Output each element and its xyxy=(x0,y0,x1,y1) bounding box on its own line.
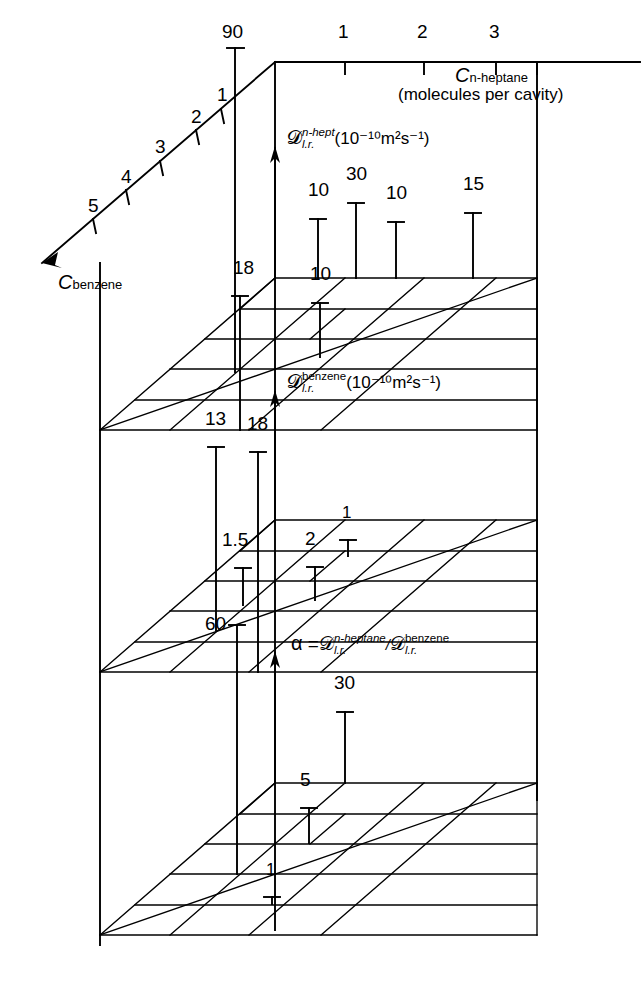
bar-label-10-b: 10 xyxy=(386,183,407,202)
x-axis-symbol: C xyxy=(455,64,469,86)
x-axis-title: Cn-heptane xyxy=(455,65,528,85)
depth-axis-title: Cbenzene xyxy=(58,272,122,292)
scale-label-90: 90 xyxy=(222,22,243,41)
x-axis-units: (molecules per cavity) xyxy=(398,86,563,103)
x-axis-subscript: n-heptane xyxy=(469,70,528,85)
diffusivity-indices-nhept: n-heptl.r. xyxy=(302,127,335,150)
diffusivity-units-benzene: (10⁻¹⁰m²s⁻¹) xyxy=(346,373,441,392)
diffusivity-indices-benzene: benzenel.r. xyxy=(302,371,346,394)
panel-n-heptane-label: 𝓓n-heptl.r.(10⁻¹⁰m²s⁻¹) xyxy=(287,128,430,151)
scale-bar-90 xyxy=(227,48,244,372)
bar-label-30-alpha: 30 xyxy=(334,673,355,692)
bar-label-2: 2 xyxy=(305,529,316,548)
alpha-numerator-symbol: 𝒟 xyxy=(319,632,334,654)
depth-axis-symbol: C xyxy=(58,271,72,293)
bar-label-1-alpha: 1 xyxy=(266,861,275,878)
depth-tick-label-1: 1 xyxy=(217,85,228,104)
bar-label-10-c: 10 xyxy=(310,264,331,283)
panel-alpha-bars xyxy=(229,625,353,904)
bar-label-60: 60 xyxy=(205,614,226,633)
bar-60 xyxy=(229,625,245,874)
bar-label-1p5: 1.5 xyxy=(222,530,248,549)
alpha-equals: = xyxy=(308,633,319,654)
diffusivity-symbol-nhept: 𝓓 xyxy=(287,126,302,148)
panel-alpha-base-plane xyxy=(100,783,537,935)
diffusivity-symbol-benzene: 𝓓 xyxy=(287,370,302,392)
panel-alpha-axis-arrow xyxy=(270,651,280,783)
panel-benzene-axis-arrow xyxy=(270,390,280,520)
bar-label-10-a: 10 xyxy=(308,180,329,199)
bar-5 xyxy=(301,808,317,843)
depth-axis-subscript: benzene xyxy=(72,277,122,292)
bar-label-15: 15 xyxy=(463,174,484,193)
bar-1-alpha xyxy=(264,897,280,904)
bar-label-18-top: 18 xyxy=(233,258,254,277)
bar-label-1-inner: 1 xyxy=(342,504,351,521)
bar-label-5: 5 xyxy=(300,770,311,789)
alpha-denominator-symbol: 𝒟 xyxy=(390,632,405,654)
bar-18-front xyxy=(250,452,266,672)
alpha-numerator-indices: n-heptanel.r. xyxy=(334,633,386,656)
depth-tick-label-3: 3 xyxy=(155,137,166,156)
depth-tick-label-5: 5 xyxy=(88,196,99,215)
bar-1p5 xyxy=(235,568,251,605)
panel-n-heptane-bars xyxy=(232,203,481,430)
x-tick-label-2: 2 xyxy=(417,22,428,41)
bar-label-18-mid: 18 xyxy=(247,414,268,433)
bar-label-30-top: 30 xyxy=(346,164,367,183)
bar-10c xyxy=(312,303,328,357)
x-tick-label-3: 3 xyxy=(489,22,500,41)
bar-30-alpha xyxy=(337,712,353,783)
alpha-symbol: α xyxy=(291,632,303,654)
depth-axis-benzene xyxy=(42,62,275,263)
panel-alpha-label: α =𝒟n-heptanel.r./𝒟benzenel.r. xyxy=(291,633,449,657)
panel-n-heptane-axis-arrow xyxy=(270,146,280,278)
alpha-denominator-indices: benzenel.r. xyxy=(405,633,449,656)
panel-n-heptane-base-plane xyxy=(100,278,537,430)
bar-15 xyxy=(465,213,481,278)
figure-canvas: 1 2 3 Cn-heptane (molecules per cavity) … xyxy=(0,0,644,988)
panel-benzene-label: 𝓓benzenel.r.(10⁻¹⁰m²s⁻¹) xyxy=(287,372,441,395)
diffusivity-units-nhept: (10⁻¹⁰m²s⁻¹) xyxy=(335,129,430,148)
depth-tick-label-2: 2 xyxy=(191,107,202,126)
bar-label-13: 13 xyxy=(205,409,226,428)
x-tick-label-1: 1 xyxy=(338,22,349,41)
bar-30 xyxy=(348,203,364,278)
depth-tick-label-4: 4 xyxy=(121,167,132,186)
bar-10b xyxy=(388,222,404,278)
